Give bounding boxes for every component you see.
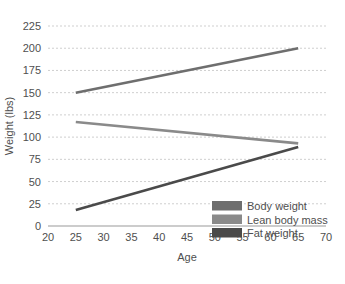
y-tick-label: 100 [23,131,41,143]
x-tick-label: 25 [70,231,82,243]
y-tick-label: 125 [23,109,41,121]
x-tick-label: 20 [42,231,54,243]
x-axis-title-group: Age [177,251,197,263]
x-tick-label: 30 [97,231,109,243]
y-tick-label: 200 [23,42,41,54]
y-axis-title: Weight (lbs) [3,97,15,155]
x-tick-label: 45 [181,231,193,243]
legend: Body weightLean body massFat weight [212,200,328,239]
y-tick-label: 225 [23,20,41,32]
series-lines-group [76,48,298,210]
y-tick-label: 25 [29,198,41,210]
series-line-lean-body-mass [76,122,298,143]
legend-swatch [212,228,242,238]
y-tick-label: 175 [23,64,41,76]
chart-canvas: 0255075100125150175200225 20253035404550… [0,0,345,284]
y-tick-label: 75 [29,153,41,165]
y-tick-label: 0 [35,220,41,232]
x-tick-label: 40 [153,231,165,243]
line-chart: 0255075100125150175200225 20253035404550… [0,0,345,284]
legend-label: Lean body mass [247,214,328,226]
legend-label: Fat weight [247,227,298,239]
x-tick-label: 70 [320,231,332,243]
y-tick-label: 50 [29,176,41,188]
y-tick-label: 150 [23,87,41,99]
x-tick-label: 35 [125,231,137,243]
y-axis-title-group: Weight (lbs) [3,97,15,155]
legend-swatch [212,215,242,225]
legend-swatch [212,201,242,211]
y-tick-labels-group: 0255075100125150175200225 [23,20,41,232]
x-axis-title: Age [177,251,197,263]
legend-label: Body weight [247,200,307,212]
